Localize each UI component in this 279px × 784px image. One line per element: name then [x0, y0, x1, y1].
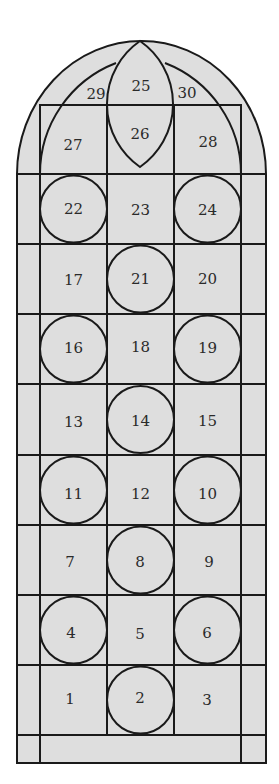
panel-label: 6 — [202, 624, 212, 642]
panel-label: 10 — [198, 485, 217, 503]
panel-label: 7 — [65, 553, 75, 571]
panel-label: 1 — [65, 690, 75, 708]
panel-label: 21 — [131, 270, 150, 288]
panel-label: 9 — [204, 553, 214, 571]
panel-label: 20 — [198, 270, 217, 288]
panel-label-28: 28 — [198, 133, 217, 151]
panel-label: 16 — [64, 339, 83, 357]
panel-label-30: 30 — [177, 84, 196, 102]
panel-label: 2 — [135, 689, 145, 707]
panel-label: 19 — [198, 339, 217, 357]
panel-label: 14 — [131, 412, 150, 430]
panel-label: 13 — [64, 413, 83, 431]
panel-label: 15 — [198, 412, 217, 430]
panel-label: 12 — [131, 485, 150, 503]
panel-label-26: 26 — [130, 125, 149, 143]
panel-label: 8 — [135, 553, 145, 571]
panel-label-27: 27 — [63, 136, 82, 154]
panel-label: 18 — [131, 338, 150, 356]
panel-label: 23 — [131, 201, 150, 219]
panel-label: 4 — [66, 624, 76, 642]
panel-label: 17 — [64, 271, 83, 289]
panel-label: 24 — [198, 201, 217, 219]
panel-label-25: 25 — [131, 77, 150, 95]
panel-label-29: 29 — [86, 85, 105, 103]
panel-label: 5 — [135, 625, 145, 643]
panel-label: 3 — [202, 691, 212, 709]
stained-glass-window-diagram: 25 26 29 30 27 28 22 23 24 17 21 20 16 1… — [0, 0, 279, 784]
panel-label: 11 — [64, 485, 83, 503]
panel-label: 22 — [64, 200, 83, 218]
